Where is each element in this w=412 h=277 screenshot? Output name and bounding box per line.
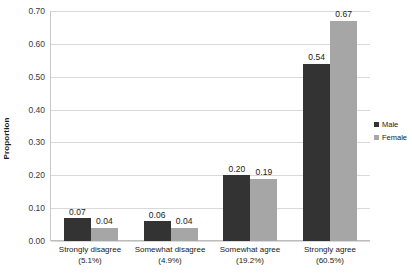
legend-swatch-icon xyxy=(374,135,379,140)
category-percent: (19.2%) xyxy=(210,255,290,266)
category-name: Strongly disagree xyxy=(59,245,121,254)
bar-male[interactable] xyxy=(64,218,91,241)
plot-area: 0.070.040.060.040.200.190.540.67 xyxy=(50,11,370,241)
category-name: Strongly agree xyxy=(304,245,356,254)
y-axis-tick: 0.60 xyxy=(28,40,45,49)
category-percent: (60.5%) xyxy=(290,255,370,266)
legend-item-female[interactable]: Female xyxy=(374,132,412,143)
x-axis-category-label: Strongly agree(60.5%) xyxy=(290,244,370,266)
bar-chart: Proportion 0.700.600.500.400.300.200.100… xyxy=(0,0,412,277)
bar-female[interactable] xyxy=(250,179,277,241)
bar-group: 0.060.04 xyxy=(131,11,211,241)
legend-label: Female xyxy=(382,132,407,143)
bar-value-label: 0.67 xyxy=(335,10,352,19)
bar-value-label: 0.07 xyxy=(69,208,86,217)
x-axis-category-label: Strongly disagree(5.1%) xyxy=(50,244,130,266)
x-axis-category-labels: Strongly disagree(5.1%)Somewhat disagree… xyxy=(50,244,370,266)
bar-group: 0.070.04 xyxy=(51,11,131,241)
bar-group: 0.200.19 xyxy=(211,11,291,241)
y-axis-tick: 0.20 xyxy=(28,171,45,180)
y-axis-tick: 0.00 xyxy=(28,237,45,246)
y-axis-tick: 0.10 xyxy=(28,204,45,213)
y-axis-tick: 0.70 xyxy=(28,7,45,16)
legend-swatch-icon xyxy=(374,122,379,127)
category-name: Somewhat disagree xyxy=(135,245,206,254)
bar-groups: 0.070.040.060.040.200.190.540.67 xyxy=(51,11,370,241)
bar-female[interactable] xyxy=(171,228,198,241)
legend-item-male[interactable]: Male xyxy=(374,119,412,130)
bar-female[interactable] xyxy=(91,228,118,241)
x-axis-category-label: Somewhat disagree(4.9%) xyxy=(130,244,210,266)
bar-value-label: 0.06 xyxy=(149,211,166,220)
bar-male[interactable] xyxy=(223,175,250,241)
y-axis-title: Proportion xyxy=(0,0,14,277)
bar-value-label: 0.19 xyxy=(256,168,273,177)
bar-value-label: 0.20 xyxy=(229,165,246,174)
y-axis-tick: 0.50 xyxy=(28,72,45,81)
category-percent: (4.9%) xyxy=(130,255,210,266)
bar-value-label: 0.04 xyxy=(96,217,113,226)
gridline xyxy=(51,241,370,242)
category-percent: (5.1%) xyxy=(50,255,130,266)
x-axis-category-label: Somewhat agree(19.2%) xyxy=(210,244,290,266)
bar-value-label: 0.04 xyxy=(176,217,193,226)
legend: MaleFemale xyxy=(374,119,412,145)
bar-male[interactable] xyxy=(303,64,330,241)
bar-female[interactable] xyxy=(330,21,357,241)
legend-label: Male xyxy=(382,119,398,130)
bar-value-label: 0.54 xyxy=(308,53,325,62)
y-axis-tick: 0.30 xyxy=(28,138,45,147)
y-axis-tick: 0.40 xyxy=(28,105,45,114)
category-name: Somewhat agree xyxy=(220,245,280,254)
y-axis-tick-labels: 0.700.600.500.400.300.200.100.00 xyxy=(14,0,48,241)
bar-male[interactable] xyxy=(144,221,171,241)
bar-group: 0.540.67 xyxy=(290,11,370,241)
